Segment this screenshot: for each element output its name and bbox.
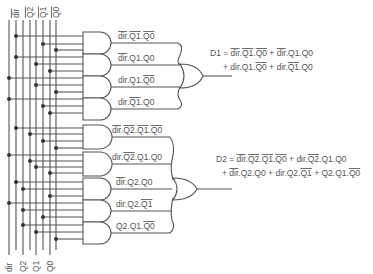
svg-text:+ dir.Q2.Q0 + dir.Q2.Q1 + Q2.Q: + dir.Q2.Q0 + dir.Q2.Q1 + Q2.Q1.Q0 <box>222 168 361 178</box>
svg-text:dir.Q2.Q1.Q0: dir.Q2.Q1.Q0 <box>112 125 162 135</box>
label-q1-bar: Q1 <box>38 6 48 18</box>
and-gate-d1-1 <box>14 32 111 54</box>
label-q1: Q1 <box>31 260 41 272</box>
svg-text:dir.Q2.Q0: dir.Q2.Q0 <box>116 177 153 187</box>
label-q2-bar: Q2 <box>25 6 35 18</box>
top-input-labels: dir Q2 Q1 Q0 <box>11 6 61 18</box>
label-q0: Q0 <box>45 260 55 272</box>
or-gate-d2 <box>173 178 232 200</box>
svg-text:dir.Q2.Q1: dir.Q2.Q1 <box>116 199 153 209</box>
label-q0-bar: Q0 <box>51 6 61 18</box>
logic-circuit-diagram: dir Q2 Q1 Q0 dir Q2 Q1 Q0 <box>0 0 373 274</box>
bottom-input-labels: dir Q2 Q1 Q0 <box>4 260 55 272</box>
svg-text:dir.Q2.Q1.Q0: dir.Q2.Q1.Q0 <box>112 152 162 162</box>
d2-equation: D2 = dir.Q2.Q1.Q0 + dir.Q2.Q1.Q0 + dir.Q… <box>216 154 361 178</box>
and-gate-d1-2 <box>14 54 111 76</box>
and-gate-d2-5 <box>21 222 111 244</box>
svg-text:dir.Q1.Q0: dir.Q1.Q0 <box>118 97 155 107</box>
svg-text:D1 = dir.Q1.Q0 + dir.Q1.Q0: D1 = dir.Q1.Q0 + dir.Q1.Q0 <box>210 48 313 58</box>
and-gate-d2-1 <box>14 125 112 150</box>
label-dir: dir <box>4 262 14 272</box>
label-q2: Q2 <box>18 260 28 272</box>
svg-text:D2 = dir.Q2.Q1.Q0 + dir.Q2.Q1.: D2 = dir.Q2.Q1.Q0 + dir.Q2.Q1.Q0 <box>216 154 347 164</box>
svg-text:dir.Q1.Q0: dir.Q1.Q0 <box>118 53 155 63</box>
svg-text:dir.Q1.Q0: dir.Q1.Q0 <box>118 75 155 85</box>
d2-term-labels: dir.Q2.Q1.Q0 dir.Q2.Q1.Q0 dir.Q2.Q0 dir.… <box>112 125 162 231</box>
label-dir-bar: dir <box>11 8 21 18</box>
d1-term-labels: dir.Q1.Q0 dir.Q1.Q0 dir.Q1.Q0 dir.Q1.Q0 <box>118 31 155 107</box>
svg-text:+ dir.Q1.Q0 + dir.Q1.Q0: + dir.Q1.Q0 + dir.Q1.Q0 <box>223 62 313 72</box>
svg-text:Q2.Q1.Q0: Q2.Q1.Q0 <box>116 221 155 231</box>
and-gate-d2-3 <box>14 178 111 200</box>
svg-text:dir.Q1.Q0: dir.Q1.Q0 <box>118 31 155 41</box>
d1-equation: D1 = dir.Q1.Q0 + dir.Q1.Q0 + dir.Q1.Q0 +… <box>210 48 313 72</box>
